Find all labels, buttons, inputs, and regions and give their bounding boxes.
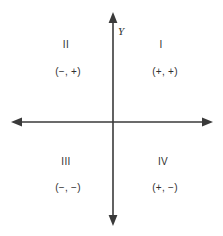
quadrant-diagram: Y II (−, +) I (+, +) III (−, −) IV (+, −… <box>0 0 223 236</box>
quadrant-1-signs: (+, +) <box>152 67 178 77</box>
x-axis-right-arrow-icon <box>202 118 213 127</box>
quadrant-3-numeral: III <box>61 157 71 167</box>
quadrant-1-numeral: I <box>159 40 162 50</box>
quadrant-4-signs: (+, −) <box>152 183 178 193</box>
coordinate-axes <box>0 0 223 236</box>
quadrant-3-signs: (−, −) <box>55 183 81 193</box>
y-axis-label: Y <box>118 26 124 37</box>
quadrant-2-numeral: II <box>63 40 69 50</box>
y-axis-down-arrow-icon <box>109 215 118 226</box>
x-axis-left-arrow-icon <box>11 118 22 127</box>
quadrant-2-signs: (−, +) <box>55 67 81 77</box>
y-axis-up-arrow-icon <box>109 12 118 23</box>
quadrant-4-numeral: IV <box>158 157 168 167</box>
